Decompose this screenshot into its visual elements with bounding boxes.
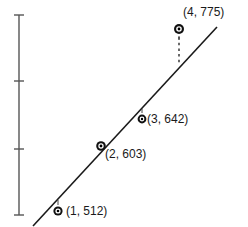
point-label-4: (4, 775) [183,6,224,18]
point-label-3: (3, 642) [147,113,188,125]
data-point-marker-4[interactable] [174,24,184,34]
plot-canvas [0,0,248,227]
data-point-marker-1[interactable] [53,206,62,215]
point-label-2: (2, 603) [105,148,146,160]
data-point-marker-3[interactable] [138,115,147,124]
regression-trend-line [33,27,217,226]
scatter-plot-figure: (1, 512) (2, 603) (3, 642) (4, 775) [0,0,248,227]
point-label-1: (1, 512) [66,205,107,217]
